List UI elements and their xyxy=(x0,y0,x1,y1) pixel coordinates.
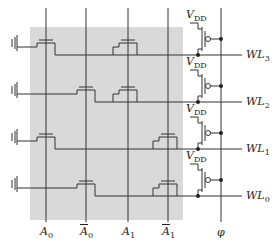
junction-dot xyxy=(196,194,200,198)
junction-dot xyxy=(219,178,223,182)
pmos-bubble xyxy=(206,131,211,136)
pmos-bubble xyxy=(206,84,211,89)
junction-dot xyxy=(219,84,223,88)
input-label-a0: A0 xyxy=(40,226,53,240)
wordline-label-wl0: WL0 xyxy=(246,190,270,204)
vdd-label: VDD xyxy=(186,9,207,23)
input-label-a1: A1 xyxy=(122,226,135,240)
vdd-label: VDD xyxy=(186,56,207,70)
vdd-label: VDD xyxy=(186,150,207,164)
clock-label-phi: φ xyxy=(217,227,225,238)
junction-dot xyxy=(219,131,223,135)
nor-array-shading xyxy=(30,27,183,220)
wordline-label-wl1: WL1 xyxy=(246,143,270,157)
decoder-diagram xyxy=(0,0,277,244)
wordline-label-wl3: WL3 xyxy=(246,49,270,63)
input-label-a0-bar: A0 xyxy=(80,226,93,240)
wordline-label-wl2: WL2 xyxy=(246,96,270,110)
junction-dot xyxy=(219,37,223,41)
vdd-label: VDD xyxy=(186,103,207,117)
input-label-a1-bar: A1 xyxy=(162,226,175,240)
pmos-bubble xyxy=(206,37,211,42)
pmos-bubble xyxy=(206,178,211,183)
